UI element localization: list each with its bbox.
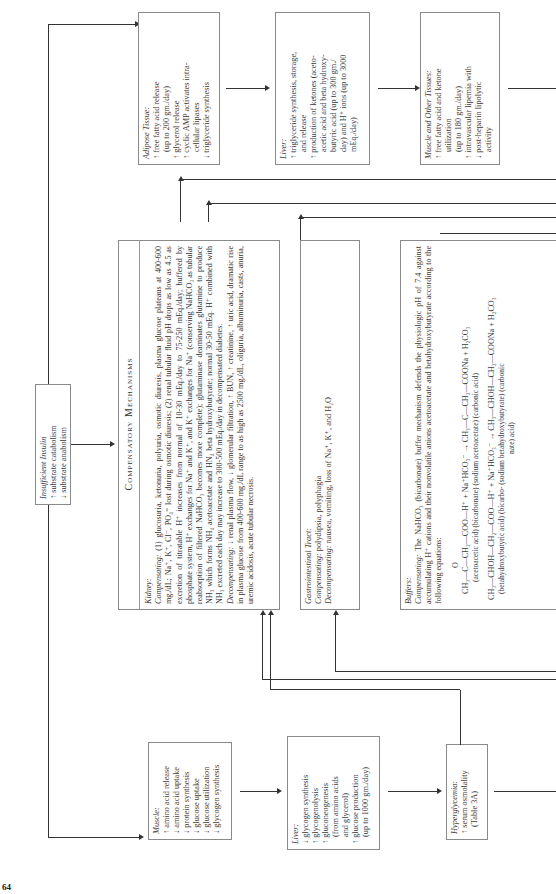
adipose-line: (up to 200 gm./day) [162, 18, 172, 159]
buffers-compensating-text: The NaHCO₃ (bicarbonate) buffer mechanis… [414, 246, 443, 604]
compensatory-heading: Compensatory Mechanisms [123, 324, 134, 524]
equation-2-labels: (betahydroxybutyric acid) (bicarbo- (sod… [497, 246, 507, 604]
liver-bottom-box: Liver: ↓ glycogen synthesis ↑ glycogenol… [287, 736, 380, 850]
adipose-line: ↓ triglyceride synthesis [202, 18, 212, 159]
gi-decompensating-text: nausea, vomiting, loss of Na⁺, K⁺, and H… [324, 397, 333, 543]
gi-title: Gastrointestinal Tract: [304, 246, 314, 604]
muscle-other-line: activity [484, 18, 494, 159]
liver-bottom-title: Liver: [291, 742, 301, 844]
adipose-line: ↑ glycerol release [172, 18, 182, 159]
liver-bottom-line: ↑ glycogenolysis [311, 742, 321, 844]
muscle-other-title: Muscle and Other Tissues: [424, 18, 434, 159]
rotated-page: Insufficient Insulin ↑ substrate catabol… [0, 0, 556, 894]
adipose-tissue-box: Adipose Tissue: ↑ free fatty acid releas… [138, 12, 220, 165]
feedback-line [300, 217, 556, 218]
adipose-line: ↑ free fatty acid release [152, 18, 162, 159]
muscle-other-tissues-box: Muscle and Other Tissues: ↑ free fatty a… [420, 12, 500, 165]
kidney-compensating-text: (1) glucosuria, ketonuria, polyuria, osm… [154, 246, 224, 604]
muscle-title: Muscle: [152, 748, 162, 834]
feedback-line [208, 203, 556, 204]
equation-1-labels: (acetoacetic acid) (bicarbonate) (sodium… [471, 246, 481, 604]
insufficient-insulin-line: ↑ substrate catabolism [49, 390, 59, 499]
kidney-compensating-label: Compensating: [154, 555, 163, 604]
liver-top-line: ↑ production of ketones (aceto- [309, 18, 319, 159]
connector-line [494, 791, 556, 792]
liver-top-line: day) and H⁺ ions (up to 3000 [339, 18, 349, 159]
connector-line [48, 505, 49, 838]
arrow-muscle-to-liver [240, 791, 278, 792]
feedback-line [335, 671, 556, 672]
page-number: 64 [2, 882, 11, 892]
hyperglycemia-title: Hyperglycemia: [450, 750, 460, 834]
adipose-line: ↑ cyclic AMP activates intra- [182, 18, 192, 159]
liver-bottom-line: ↑ glucose production [351, 742, 361, 844]
hyperglycemia-line: (Table 3A) [470, 750, 480, 834]
insufficient-insulin-line: ↓ substrate anabolism [59, 390, 69, 499]
buffers-title: Buffers: [404, 246, 414, 604]
liver-bottom-line: (from amino acids [331, 742, 341, 844]
muscle-other-line: ↓ post-heparin lipolytic [474, 18, 484, 159]
liver-top-line: ↑ triglyceride synthesis, storage, [289, 18, 299, 159]
muscle-other-line: ↑ intravascular lipemia with [464, 18, 474, 159]
liver-bottom-line: and glycerol) [341, 742, 351, 844]
muscle-other-line: ↑ free fatty acid and ketone [434, 18, 444, 159]
eq1-keto-oxygen: O [451, 246, 461, 604]
feedback-line [460, 690, 461, 745]
gastrointestinal-tract-box: Gastrointestinal Tract: Compensating: po… [300, 240, 360, 610]
insufficient-insulin-box: Insufficient Insulin ↑ substrate catabol… [35, 384, 71, 505]
arrow-into-kidney [180, 180, 181, 222]
arrow-adipose-to-liver [226, 88, 266, 89]
muscle-line: ↓ glycogen synthesis [212, 748, 222, 834]
liver-bottom-line: (up to 1000 gm./day) [361, 742, 371, 844]
gi-compensating-label: Compensating: [314, 553, 323, 604]
kidney-decompensating-label: Decompensating: [226, 547, 235, 604]
hyperglycemia-line: ↑ serum osmolality [460, 750, 470, 834]
liver-top-box: Liver: ↑ triglyceride synthesis, storage… [275, 12, 370, 165]
feedback-line [440, 233, 556, 234]
liver-bottom-line: ↑ gluconeogenesis [321, 742, 331, 844]
feedback-line [270, 689, 460, 690]
feedback-line [180, 179, 556, 180]
liver-top-line: and release [299, 18, 309, 159]
buffers-compensating-label: Compensating: [414, 555, 423, 604]
connector-line [48, 24, 49, 384]
muscle-box: Muscle: ↑ amino acid release ↓ amino aci… [148, 742, 232, 840]
arrow-into-kidney-lower [262, 614, 263, 680]
muscle-line: ↓ glucose uptake [192, 748, 202, 834]
feedback-line [262, 679, 556, 680]
equation-2: CH₃—CHOH—CH₂—COO—H⁺ + Na⁺HCO₃⁻ → CH₃—CHO… [487, 246, 497, 604]
gi-compensating-text: polydipsia, polyphagia [314, 476, 323, 552]
muscle-other-line: utilization [444, 18, 454, 159]
connector-line [508, 88, 556, 89]
hyperglycemia-box: Hyperglycemia: ↑ serum osmolality (Table… [446, 744, 488, 840]
liver-top-line: mEq./day) [349, 18, 359, 159]
muscle-other-line: (up to 180 gm./day) [454, 18, 464, 159]
arrow-liver-to-hyperglycemia [388, 791, 438, 792]
liver-top-line: butyric acid (up to 300 gm./ [329, 18, 339, 159]
insufficient-insulin-title: Insufficient Insulin [39, 390, 49, 499]
liver-top-title: Liver: [279, 18, 289, 159]
equation-1: CH₃—C—CH₂—COO—H⁺ + Na⁺HCO₃⁻ → CH₃—C—CH₂—… [461, 246, 471, 604]
arrow-into-gi-lower [335, 614, 336, 672]
liver-bottom-line: ↓ glycogen synthesis [301, 742, 311, 844]
arrow-to-compensatory [71, 444, 111, 445]
liver-top-line: acetic acid and beta hydroxy- [319, 18, 329, 159]
muscle-line: ↓ glucose utilization [202, 748, 212, 834]
muscle-line: ↑ amino acid release [162, 748, 172, 834]
kidney-title: Kidney: [144, 246, 154, 604]
muscle-line: ↓ amino acid uptake [172, 748, 182, 834]
equation-2-labels-cont: nate) acid) [507, 246, 517, 604]
arrow-liver-to-muscle-other [378, 88, 416, 89]
arrow-to-muscle [48, 837, 140, 838]
adipose-line: cellular lipases [192, 18, 202, 159]
muscle-line: ↓ protein synthesis [182, 748, 192, 834]
kidney-section: Kidney: Compensating: (1) glucosuria, ke… [144, 246, 256, 604]
divider [139, 240, 140, 610]
buffers-box: Buffers: Compensating: The NaHCO₃ (bicar… [400, 240, 556, 610]
arrow-to-adipose [48, 24, 136, 25]
gi-decompensating-label: Decompensating: [324, 545, 333, 604]
adipose-title: Adipose Tissue: [142, 18, 152, 159]
arrow-into-kidney-2 [208, 204, 209, 222]
